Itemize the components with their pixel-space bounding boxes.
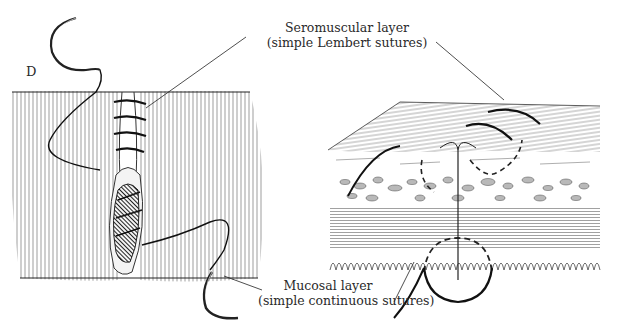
seromuscular-detail: (simple Lembert sutures) [252, 35, 442, 50]
mucosal-detail: (simple continuous sutures) [258, 293, 398, 308]
seromuscular-label: Seromuscular layer (simple Lembert sutur… [252, 20, 442, 50]
surgical-diagram: D Seromuscular layer (simple Lembert sut… [0, 0, 621, 332]
panel-letter: D [26, 64, 36, 79]
mucosal-title: Mucosal layer [258, 278, 398, 293]
mucosal-label: Mucosal layer (simple continuous sutures… [258, 278, 398, 308]
left-intestine [10, 70, 263, 282]
seromuscular-leader-right [436, 42, 504, 100]
seromuscular-title: Seromuscular layer [252, 20, 442, 35]
curved-needle-icon [51, 18, 100, 70]
